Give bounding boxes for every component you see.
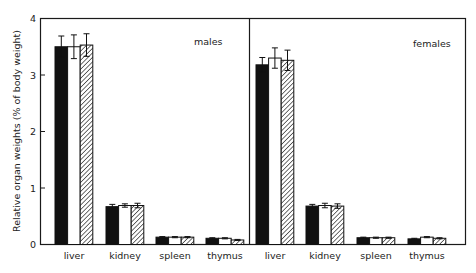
x-label-female-kidney: kidney [309, 250, 341, 261]
x-label-male-thymus: thymus [207, 250, 243, 261]
bar-males-spleen-0 [156, 237, 169, 244]
panel-label-males: males [194, 36, 223, 47]
y-tick-2: 2 [30, 126, 36, 137]
y-tick-1: 1 [30, 183, 36, 194]
plot-frame [41, 19, 466, 245]
bar-males-spleen-1 [169, 237, 182, 244]
bar-females-liver-0 [256, 65, 269, 245]
axes-frame [41, 19, 466, 245]
y-axis-label: Relative organ weights (% of body weight… [11, 30, 22, 232]
bar-females-thymus-1 [421, 237, 434, 244]
y-tick-0: 0 [30, 239, 36, 250]
bar-males-liver-0 [55, 47, 68, 245]
bar-males-liver-2 [80, 45, 93, 244]
bar-females-kidney-0 [306, 206, 319, 244]
y-tick-4: 4 [30, 13, 36, 24]
bar-females-kidney-1 [319, 206, 332, 245]
x-label-female-thymus: thymus [409, 250, 445, 261]
bar-males-liver-1 [68, 47, 81, 245]
bar-females-liver-2 [281, 60, 294, 244]
panel-label-females: females [413, 38, 451, 49]
bar-males-kidney-0 [106, 207, 119, 245]
bar-males-kidney-1 [119, 206, 132, 245]
x-label-male-liver: liver [64, 250, 85, 261]
y-tick-3: 3 [30, 70, 36, 81]
bars-layer [55, 34, 446, 245]
x-label-male-kidney: kidney [109, 250, 141, 261]
x-label-female-liver: liver [265, 250, 286, 261]
x-label-male-spleen: spleen [159, 250, 190, 261]
x-label-female-spleen: spleen [360, 250, 391, 261]
bar-females-liver-1 [269, 58, 282, 244]
organ-weight-chart [0, 0, 476, 273]
bar-males-kidney-2 [131, 206, 144, 245]
bar-females-kidney-2 [331, 206, 344, 244]
bar-males-spleen-2 [181, 237, 194, 244]
